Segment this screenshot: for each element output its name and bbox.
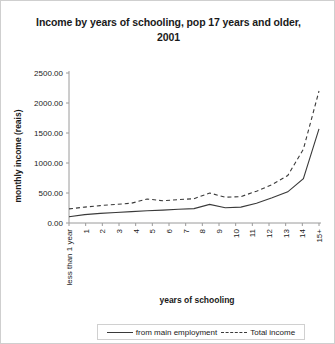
x-tick-label: 1	[82, 228, 91, 233]
x-tick-label: 6	[165, 228, 174, 233]
x-tick-label: 3	[115, 228, 124, 233]
series-line-from-main-employment	[69, 129, 319, 217]
x-tick-label: 10	[232, 228, 241, 237]
legend-label-total-income: Total income	[250, 328, 295, 337]
x-tick-label: less than 1 year	[65, 229, 74, 286]
y-axis-tick-labels: 0.00500.001000.001500.002000.002500.00	[34, 69, 63, 228]
x-axis-title: years of schooling	[159, 295, 234, 305]
y-tick-label: 500.00	[39, 189, 64, 198]
y-axis-title: monthly income (reais)	[13, 109, 23, 202]
x-tick-label: 4	[132, 228, 141, 233]
x-tick-label: 11	[248, 228, 257, 237]
plot-area: 0.00500.001000.001500.002000.002500.00 l…	[1, 1, 335, 344]
y-tick-label: 1500.00	[34, 129, 63, 138]
chart-legend: from main employment Total income	[97, 324, 305, 340]
legend-item-from-main-employment: from main employment	[107, 328, 217, 337]
y-tick-label: 2500.00	[34, 69, 63, 78]
x-tick-label: 8	[198, 228, 207, 233]
legend-swatch-solid-line-icon	[107, 332, 133, 333]
series-line-total-income	[69, 91, 319, 209]
x-tick-label: 12	[265, 228, 274, 237]
x-tick-label: 7	[182, 228, 191, 233]
legend-swatch-dashed-line-icon	[221, 332, 247, 333]
y-tick-label: 2000.00	[34, 99, 63, 108]
x-tick-label: 2	[98, 228, 107, 233]
x-tick-label: 13	[282, 228, 291, 237]
x-tick-label: 14	[298, 228, 307, 237]
y-tick-label: 0.00	[47, 219, 63, 228]
x-tick-label: 9	[215, 228, 224, 233]
x-axis-category-labels: less than 1 year123456789101112131415+	[65, 228, 324, 285]
x-tick-label: 15+	[315, 229, 324, 243]
legend-item-total-income: Total income	[221, 328, 295, 337]
x-tick-label: 5	[148, 228, 157, 233]
legend-label-from-main-employment: from main employment	[136, 328, 217, 337]
chart-figure: Income by years of schooling, pop 17 yea…	[0, 0, 335, 344]
y-tick-label: 1000.00	[34, 159, 63, 168]
